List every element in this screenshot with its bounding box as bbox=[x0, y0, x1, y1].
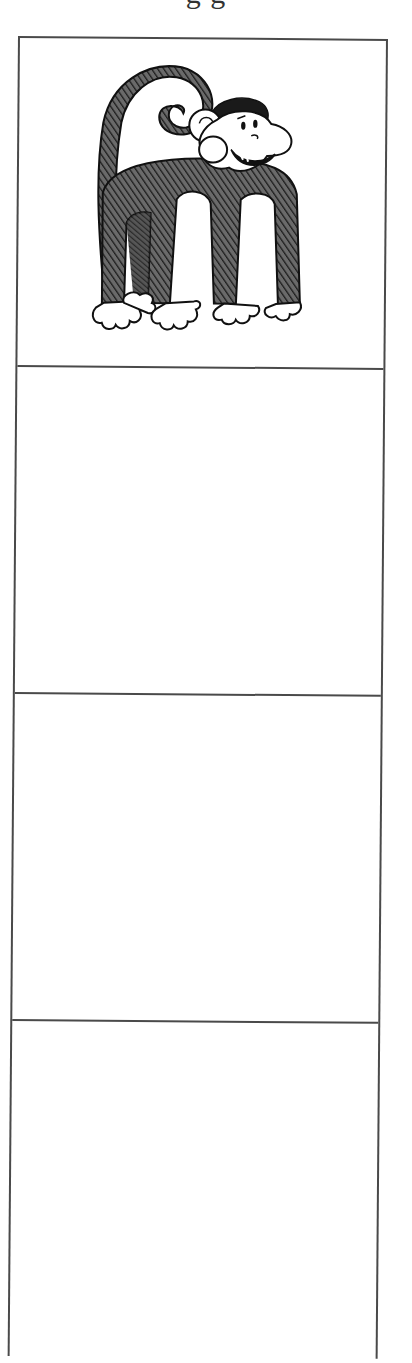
monkey-head bbox=[189, 98, 292, 172]
worksheet-cell-empty: empty bbox=[10, 1019, 379, 1363]
cell-content: empty bbox=[17, 367, 18, 368]
worksheet-grid: monkey shaped like letter m bbox=[8, 36, 388, 1359]
cell-content: empty bbox=[12, 1021, 13, 1022]
monkey-feet bbox=[93, 292, 301, 330]
page-heading-cropped: g g bbox=[0, 0, 412, 8]
worksheet-cell-picture: monkey shaped like letter m bbox=[17, 38, 386, 368]
monkey-letter-m-illustration bbox=[90, 63, 322, 345]
worksheet-cell-empty: empty bbox=[15, 365, 384, 695]
monkey-icon bbox=[90, 63, 322, 345]
illustration-caption: monkey shaped like letter m bbox=[20, 38, 21, 39]
worksheet-cell-empty: empty bbox=[12, 692, 381, 1022]
cell-content: empty bbox=[15, 694, 16, 695]
